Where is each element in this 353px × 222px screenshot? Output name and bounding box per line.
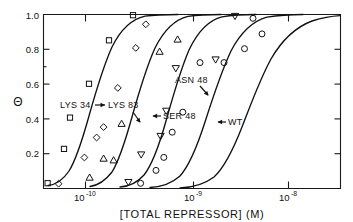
y-axis-title: Θ	[13, 95, 22, 109]
y-tick-label-3: 0.6	[26, 79, 39, 90]
binding-curve-figure: 1.0 0.8 0.6 0.4 0.2 Θ 10 -10 10 -9 10 -8…	[0, 0, 353, 222]
annotation-ser48-label: SER 48	[163, 111, 196, 121]
annotation-lys83-label: LYS 83	[108, 100, 139, 110]
x-tick-exponent-2: -9	[196, 190, 202, 197]
x-tick-mantissa-3: 10	[279, 192, 290, 203]
x-axis-title: [TOTAL REPRESSOR] (M)	[120, 208, 264, 220]
y-tick-label-4: 0.4	[26, 114, 39, 125]
y-tick-label-2: 0.8	[26, 44, 39, 55]
annotation-wt-label: WT	[228, 117, 243, 127]
y-tick-label-1: 1.0	[26, 10, 39, 21]
x-tick-mantissa-2: 10	[184, 192, 195, 203]
y-tick-label-5: 0.2	[26, 148, 39, 159]
x-tick-exponent-1: -10	[86, 190, 96, 197]
annotation-asn48-label: ASN 48	[175, 75, 208, 85]
chart-svg: 1.0 0.8 0.6 0.4 0.2 Θ 10 -10 10 -9 10 -8…	[0, 0, 353, 222]
x-tick-exponent-3: -8	[291, 190, 297, 197]
annotation-lys34-label: LYS 34	[60, 100, 91, 110]
x-tick-mantissa-1: 10	[74, 192, 85, 203]
